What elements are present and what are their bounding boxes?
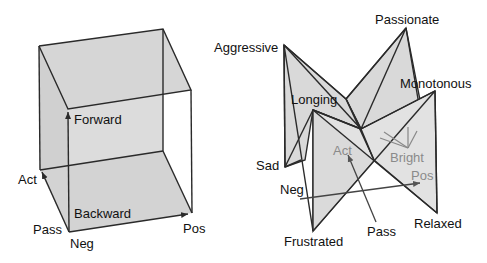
label-neg: Neg [280, 182, 304, 197]
label-bright: Bright [390, 150, 424, 165]
label-neg: Neg [70, 236, 94, 251]
label-backward: Backward [74, 206, 131, 221]
forward-axis-arrow [68, 112, 69, 232]
label-longing: Longing [291, 92, 337, 107]
emotion-space-figure: Forward Backward Act Pass Neg Pos [0, 0, 487, 263]
label-pass: Pass [367, 224, 396, 239]
label-act: Act [18, 172, 37, 187]
label-act: Act [333, 143, 352, 158]
label-sad: Sad [256, 158, 279, 173]
emotion-surface-diagram: Aggressive Passionate Monotonous Longing… [214, 12, 472, 249]
label-relaxed: Relaxed [414, 216, 462, 231]
label-frustrated: Frustrated [284, 234, 343, 249]
label-passionate: Passionate [375, 12, 439, 27]
label-aggressive: Aggressive [214, 40, 278, 55]
label-pos: Pos [183, 221, 206, 236]
label-pos: Pos [411, 168, 434, 183]
label-forward: Forward [74, 112, 122, 127]
cube-diagram: Forward Backward Act Pass Neg Pos [18, 29, 206, 251]
label-pass: Pass [33, 222, 62, 237]
label-monotonous: Monotonous [400, 76, 472, 91]
